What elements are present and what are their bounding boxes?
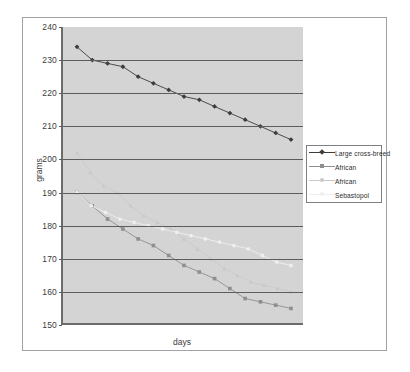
data-point-marker [182, 264, 186, 268]
data-point-marker [120, 64, 125, 69]
gridline [63, 193, 303, 194]
y-axis-tick-label: 230 [23, 56, 57, 65]
data-point-marker [89, 204, 93, 208]
data-point-marker [166, 88, 171, 93]
legend-marker-icon [309, 174, 335, 188]
y-axis-tick-label: 240 [23, 23, 57, 32]
legend-marker-icon [309, 146, 335, 160]
legend-item-label: African [335, 164, 356, 171]
legend-marker-icon [309, 188, 335, 202]
data-series-layer [63, 27, 303, 325]
series-line [77, 153, 291, 292]
data-point-marker [228, 287, 232, 291]
chart-figure: 240230220210200190180170160150 grams day… [0, 0, 410, 372]
legend-item[interactable]: African [307, 160, 381, 174]
legend-item[interactable]: African [307, 174, 381, 188]
plot-area [61, 27, 303, 325]
data-point-marker [275, 260, 279, 264]
data-point-marker [106, 217, 110, 221]
y-axis-tick-mark [59, 259, 62, 260]
x-axis-title: days [61, 337, 303, 347]
legend-marker-icon [309, 160, 335, 174]
gridline [63, 292, 303, 293]
gridline [63, 259, 303, 260]
legend-item-label: Large cross-breed [335, 150, 390, 157]
data-point-marker [136, 237, 140, 241]
data-point-marker [75, 151, 79, 155]
data-point-marker [182, 94, 187, 99]
legend-item-label: Sebastopol [335, 192, 369, 199]
data-point-marker [197, 97, 202, 102]
data-point-marker [152, 244, 156, 248]
data-point-marker [227, 111, 232, 116]
data-point-marker [118, 217, 122, 221]
y-axis-tick-label: 160 [23, 288, 57, 297]
data-point-marker [189, 234, 193, 238]
data-point-marker [212, 104, 217, 109]
chart-legend: Large cross-breedAfricanAfricanSebastopo… [306, 145, 382, 203]
data-point-marker [104, 211, 108, 215]
data-point-marker [274, 303, 278, 307]
data-point-marker [161, 227, 165, 231]
y-axis-tick-label: 170 [23, 255, 57, 264]
data-point-marker [289, 307, 293, 311]
data-point-marker [232, 244, 236, 248]
legend-item-label: African [335, 178, 356, 185]
data-point-marker [136, 74, 141, 79]
y-axis-tick-label: 210 [23, 122, 57, 131]
data-point-marker [289, 137, 294, 142]
data-point-marker [243, 297, 247, 301]
series-line [77, 193, 291, 266]
data-point-marker [222, 266, 226, 270]
y-axis-tick-label: 180 [23, 222, 57, 231]
gridline [63, 60, 303, 61]
data-point-marker [243, 117, 248, 122]
data-point-marker [151, 81, 156, 86]
y-axis-tick-label: 150 [23, 321, 57, 330]
data-point-marker [132, 220, 136, 224]
legend-item[interactable]: Large cross-breed [307, 146, 381, 160]
y-axis-tick-mark [59, 126, 62, 127]
y-axis-tick-label: 220 [23, 89, 57, 98]
y-axis-tick-mark [59, 292, 62, 293]
data-point-marker [121, 227, 125, 231]
gridline [63, 93, 303, 94]
y-axis-tick-mark [59, 226, 62, 227]
data-point-marker [175, 230, 179, 234]
y-axis-title: grams [34, 140, 44, 200]
data-point-marker [273, 131, 278, 136]
y-axis-tick-mark [59, 93, 62, 94]
data-point-marker [105, 61, 110, 66]
y-axis-tick-mark [59, 193, 62, 194]
data-point-marker [182, 237, 186, 241]
y-axis-tick-mark [59, 159, 62, 160]
data-point-marker [235, 273, 239, 277]
data-point-marker [259, 300, 263, 304]
data-point-marker [167, 254, 171, 258]
data-point-marker [218, 240, 222, 244]
y-axis-tick-mark [59, 325, 62, 326]
gridline [63, 126, 303, 127]
data-point-marker [261, 254, 265, 258]
data-point-marker [204, 237, 208, 241]
gridline [63, 159, 303, 160]
data-point-marker [289, 264, 293, 268]
data-point-marker [213, 277, 217, 281]
data-point-marker [246, 247, 250, 251]
legend-item[interactable]: Sebastopol [307, 188, 381, 202]
gridline [63, 226, 303, 227]
data-point-marker [197, 270, 201, 274]
y-axis-tick-mark [59, 27, 62, 28]
y-axis-tick-mark [59, 60, 62, 61]
